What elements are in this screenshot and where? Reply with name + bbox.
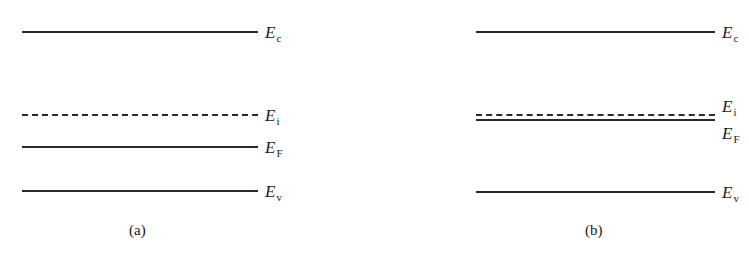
subscript: F bbox=[733, 133, 739, 145]
conduction-band-line bbox=[476, 31, 715, 33]
panel-b: Ec Ei EF Ev (b) bbox=[0, 0, 749, 264]
symbol: E bbox=[722, 97, 732, 116]
symbol: E bbox=[722, 183, 732, 202]
symbol: E bbox=[722, 23, 732, 42]
subscript: c bbox=[733, 32, 738, 44]
conduction-band-label: Ec bbox=[722, 24, 738, 44]
panel-b-caption: (b) bbox=[585, 223, 603, 238]
intrinsic-level-line bbox=[476, 114, 715, 116]
fermi-level-line bbox=[476, 119, 715, 121]
fermi-level-label: EF bbox=[722, 125, 740, 145]
intrinsic-level-label: Ei bbox=[722, 98, 736, 118]
valence-band-line bbox=[476, 191, 715, 193]
subscript: i bbox=[733, 106, 736, 118]
symbol: E bbox=[722, 124, 732, 143]
subscript: v bbox=[733, 192, 739, 204]
valence-band-label: Ev bbox=[722, 184, 739, 204]
